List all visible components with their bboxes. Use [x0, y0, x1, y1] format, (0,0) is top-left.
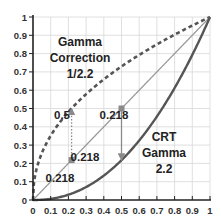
y-tick-label: 0.9 — [14, 30, 27, 41]
x-tick-label: 0.3 — [79, 205, 92, 216]
gamma-correction-label: Correction — [50, 51, 111, 65]
x-tick-label: 1 — [207, 205, 213, 216]
x-tick-label: 0.8 — [168, 205, 181, 216]
x-tick-label: 0.7 — [150, 205, 163, 216]
y-tick-label: 0.3 — [14, 140, 27, 151]
x-tick-label: 0.5 — [115, 205, 129, 216]
gamma-correction-label: Gamma — [58, 35, 102, 49]
y-tick-label: 0.4 — [14, 121, 28, 132]
gamma-chart: 00.10.20.30.40.50.60.70.80.9100.10.20.30… — [0, 0, 221, 224]
y-tick-label: 0.1 — [14, 176, 28, 187]
y-tick-label: 0.8 — [14, 48, 27, 59]
crt-gamma-label: CRT — [152, 130, 177, 144]
y-tick-label: 0.7 — [14, 66, 27, 77]
y-tick-label: 0.5 — [14, 103, 28, 114]
value-label: 0.218 — [46, 172, 75, 184]
x-tick-label: 0.6 — [133, 205, 146, 216]
x-tick-label: 0.1 — [44, 205, 58, 216]
value-label: 0.5 — [54, 109, 71, 121]
crt-gamma-label: Gamma — [142, 146, 186, 160]
annotations: GammaCorrection1/2.2CRTGamma2.20.50.2180… — [46, 35, 187, 184]
gamma-correction-label: 1/2.2 — [67, 67, 94, 81]
x-tick-label: 0 — [30, 205, 35, 216]
crt-gamma-label: 2.2 — [156, 162, 173, 176]
value-label: 0.218 — [100, 109, 129, 121]
x-tick-label: 0.4 — [97, 205, 111, 216]
y-tick-label: 1 — [22, 12, 28, 23]
y-tick-label: 0.6 — [14, 85, 27, 96]
x-tick-label: 0.2 — [62, 205, 75, 216]
value-label: 0.218 — [71, 151, 100, 163]
x-tick-label: 0.9 — [186, 205, 199, 216]
y-tick-label: 0.2 — [14, 158, 27, 169]
y-tick-label: 0 — [22, 195, 27, 206]
